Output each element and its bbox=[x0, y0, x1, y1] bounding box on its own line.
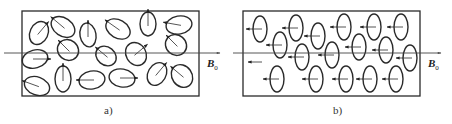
magnetic-moment bbox=[302, 66, 323, 92]
magnetic-moment bbox=[263, 66, 284, 92]
magnetic-moment bbox=[387, 14, 408, 40]
magnetic-moment bbox=[47, 12, 79, 42]
arrow-icon bbox=[166, 35, 177, 46]
panel-b-aligned-orientation bbox=[233, 11, 441, 96]
magnetic-moment bbox=[76, 69, 106, 91]
magnetic-moment bbox=[140, 9, 156, 36]
magnetic-moment bbox=[92, 42, 120, 70]
magnetic-moment bbox=[108, 67, 138, 89]
magnetic-moment bbox=[53, 35, 83, 64]
magnetic-moment bbox=[332, 66, 353, 92]
magnetic-moment bbox=[102, 15, 134, 44]
magnetic-moments-figure bbox=[0, 0, 452, 124]
magnetic-moment bbox=[246, 16, 267, 42]
magnetic-moment bbox=[143, 59, 171, 89]
caption-b: b) bbox=[333, 104, 342, 116]
magnetic-moment bbox=[121, 39, 150, 70]
magnetic-moment bbox=[382, 66, 403, 92]
arrow-icon bbox=[156, 63, 167, 76]
arrow-icon bbox=[58, 40, 69, 51]
arrow-icon bbox=[51, 17, 65, 29]
magnetic-moment bbox=[372, 37, 393, 63]
magnetic-moment bbox=[78, 20, 98, 48]
magnetic-moment bbox=[163, 14, 193, 36]
arrow-icon bbox=[105, 20, 120, 30]
arrow-icon bbox=[95, 47, 107, 57]
magnetic-moment bbox=[22, 73, 53, 99]
field-label-b0-b: B0 bbox=[428, 57, 439, 72]
magnetic-moment bbox=[26, 18, 52, 47]
panel-a-random-orientation bbox=[4, 9, 220, 99]
magnetic-moment bbox=[161, 30, 191, 59]
magnetic-moment bbox=[288, 44, 309, 70]
magnetic-moment bbox=[266, 32, 287, 58]
magnetic-moment bbox=[167, 60, 197, 91]
field-label-b0-a: B0 bbox=[207, 57, 218, 72]
arrow-icon bbox=[171, 66, 184, 77]
magnetic-moment bbox=[20, 47, 51, 71]
arrow-icon bbox=[38, 22, 49, 35]
caption-a: a) bbox=[104, 104, 113, 116]
magnetic-moment bbox=[330, 14, 351, 40]
magnetic-moment bbox=[356, 66, 377, 92]
magnetic-moment bbox=[304, 23, 325, 49]
magnetic-moment bbox=[55, 63, 71, 92]
